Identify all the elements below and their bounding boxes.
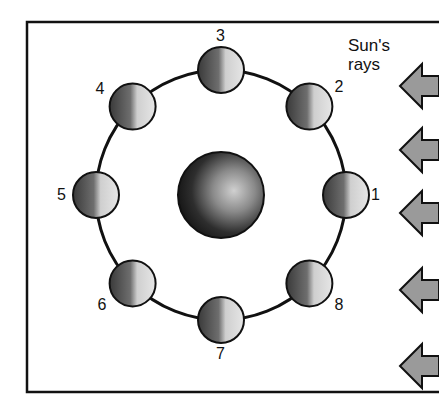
moon-icon-1 <box>323 172 369 218</box>
moon-icon-6 <box>110 260 156 306</box>
sun-ray-arrow-icon <box>400 128 439 172</box>
moon-position-label: 6 <box>98 297 107 313</box>
moon-icon-7 <box>198 297 244 343</box>
sun-rays-label-line1: Sun's <box>348 36 390 55</box>
moon-icon-5 <box>73 172 119 218</box>
moon-position-label: 2 <box>334 79 343 95</box>
sun-ray-arrow-icon <box>400 191 439 235</box>
moon-position-label: 5 <box>57 187 66 203</box>
sun-ray-arrow-icon <box>400 344 439 388</box>
moon-position-label: 1 <box>371 187 380 203</box>
moon-position-label: 3 <box>216 28 225 44</box>
sun-rays-label: Sun's rays <box>348 36 390 74</box>
moon-icon-4 <box>110 84 156 130</box>
moon-icon-8 <box>286 260 332 306</box>
moon-icon-2 <box>286 84 332 130</box>
sun-ray-arrow-icon <box>400 268 439 312</box>
sun-rays-label-line2: rays <box>348 55 390 74</box>
moon-icon-3 <box>198 47 244 93</box>
moon-position-label: 8 <box>334 297 343 313</box>
sun-ray-arrow-icon <box>400 64 439 108</box>
moon-position-label: 7 <box>216 346 225 362</box>
earth-icon <box>178 152 264 238</box>
moon-position-label: 4 <box>96 81 105 97</box>
